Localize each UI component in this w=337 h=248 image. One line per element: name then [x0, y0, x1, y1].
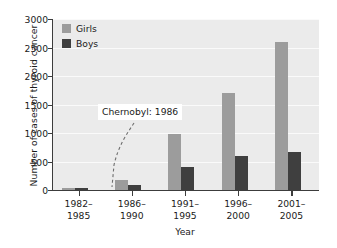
x-axis-tick-label: 1991–1995 — [155, 198, 215, 221]
x-axis-tick-mark — [79, 190, 80, 196]
y-axis-tick-mark — [48, 133, 52, 134]
legend-item-boys[interactable]: Boys — [62, 37, 98, 50]
legend-label-boys: Boys — [76, 38, 98, 49]
x-axis-tick-label-line: 2005 — [261, 210, 321, 222]
bar-boys[interactable] — [235, 156, 248, 190]
x-axis-tick-label: 2001–2005 — [261, 198, 321, 221]
x-axis-tick-label: 1982–1985 — [49, 198, 109, 221]
bar-girls[interactable] — [275, 42, 288, 190]
chernobyl-annotation-leader-line — [108, 121, 138, 189]
y-axis-tick-label: 2000 — [20, 71, 48, 82]
x-axis-tick-label-line: 1985 — [49, 210, 109, 222]
legend-label-girls: Girls — [76, 23, 97, 34]
x-axis-tick-label: 1996–2000 — [208, 198, 268, 221]
bar-girls[interactable] — [62, 188, 75, 190]
y-axis-tick-mark — [48, 76, 52, 77]
x-axis-tick-mark — [238, 190, 239, 196]
x-axis-tick-label-line: 1986– — [102, 198, 162, 210]
legend-swatch-girls — [62, 24, 71, 33]
y-axis-tick-mark — [48, 162, 52, 163]
x-axis-tick-mark — [185, 190, 186, 196]
y-axis-tick-label: 500 — [20, 156, 48, 167]
y-axis-tick-label: 1500 — [20, 99, 48, 110]
thyroid-cancer-bar-chart: Number of cases of thyroid cancer 050010… — [0, 0, 337, 248]
y-axis-tick-mark — [48, 48, 52, 49]
y-axis-tick-mark — [48, 190, 52, 191]
y-axis-tick-label: 2500 — [20, 42, 48, 53]
legend-swatch-boys — [62, 39, 71, 48]
x-axis-tick-label-line: 2000 — [208, 210, 268, 222]
bar-group — [213, 19, 266, 190]
x-axis-tick-label-line: 1991– — [155, 198, 215, 210]
x-axis-title: Year — [52, 226, 318, 237]
bar-boys[interactable] — [75, 188, 88, 190]
y-axis-tick-labels: 050010001500200025003000 — [18, 0, 48, 248]
x-axis-tick-label-line: 2001– — [261, 198, 321, 210]
bar-girls[interactable] — [222, 93, 235, 190]
x-axis-tick-mark — [132, 190, 133, 196]
legend-item-girls[interactable]: Girls — [62, 22, 98, 35]
y-axis-tick-label: 3000 — [20, 14, 48, 25]
x-axis-tick-label-line: 1982– — [49, 198, 109, 210]
x-axis-tick-mark — [291, 190, 292, 196]
chernobyl-annotation-label: Chernobyl: 1986 — [98, 104, 182, 120]
x-axis-tick-label: 1986–1990 — [102, 198, 162, 221]
x-axis-tick-label-line: 1990 — [102, 210, 162, 222]
y-axis-tick-mark — [48, 105, 52, 106]
x-axis-tick-label-line: 1996– — [208, 198, 268, 210]
y-axis-tick-mark — [48, 19, 52, 20]
y-axis-tick-label: 1000 — [20, 128, 48, 139]
legend: GirlsBoys — [62, 22, 98, 52]
bar-boys[interactable] — [181, 167, 194, 190]
y-axis-tick-label: 0 — [20, 185, 48, 196]
bar-group — [266, 19, 319, 190]
x-axis-tick-label-line: 1995 — [155, 210, 215, 222]
bar-boys[interactable] — [288, 152, 301, 190]
bar-girls[interactable] — [168, 134, 181, 190]
